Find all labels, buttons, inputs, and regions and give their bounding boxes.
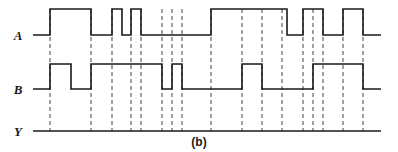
- marker-lines-group: [50, 9, 363, 131]
- figure-caption: (b): [191, 135, 206, 149]
- timing-diagram-figure: A B Y (b): [0, 0, 398, 152]
- waveform-b: [33, 64, 381, 89]
- signal-label-b: B: [13, 82, 23, 97]
- signal-label-a: A: [13, 28, 23, 43]
- signal-label-y: Y: [14, 124, 23, 139]
- waveform-group: [33, 9, 381, 131]
- timing-diagram-canvas: A B Y (b): [0, 0, 398, 152]
- waveform-a: [33, 9, 381, 35]
